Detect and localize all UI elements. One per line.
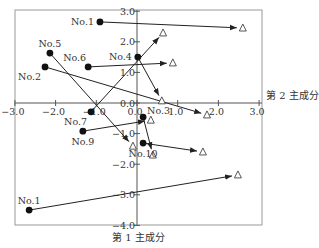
pca-arrow-chart: −3.0−2.0−1.00.01.02.03.03.02.01.00.0−1.0… [0, 0, 319, 248]
end-point-triangle [147, 116, 154, 123]
point-label: No.4 [109, 51, 132, 62]
x-tick-label: −2.0 [42, 106, 65, 117]
point-label: No.5 [38, 38, 61, 49]
start-point-dot [42, 63, 49, 70]
point-label: No.2 [18, 71, 41, 82]
x-tick-label: 2.0 [209, 106, 224, 117]
x-tick-label: 3.0 [250, 106, 265, 117]
start-point-dot [79, 128, 86, 135]
y-tick-label: −3.0 [112, 189, 135, 200]
y-tick-label: −1.0 [112, 128, 135, 139]
point-label: No.1 [71, 16, 94, 27]
start-point-dot [134, 54, 141, 61]
arrow-line [29, 176, 232, 210]
end-point-triangle [160, 29, 167, 36]
arrow-line [138, 57, 159, 95]
start-point-dot [140, 114, 147, 121]
start-point-dot [47, 50, 54, 57]
point-label: No.6 [63, 52, 86, 63]
start-point-dot [26, 207, 33, 214]
point-label: No.9 [71, 136, 94, 147]
y-tick-label: −2.0 [112, 159, 135, 170]
end-point-triangle [239, 24, 246, 31]
start-point-dot [85, 63, 92, 70]
point-label: No.3 [147, 105, 170, 116]
end-point-triangle [234, 171, 241, 178]
y-tick-label: 2.0 [120, 36, 135, 47]
x-axis-title: 第 2 主成分 [266, 89, 319, 101]
y-tick-label: −4.0 [112, 220, 135, 231]
point-label: No.7 [64, 116, 87, 127]
start-point-dot [97, 19, 104, 26]
start-point-dot [88, 108, 95, 115]
y-tick-label: 0.0 [120, 98, 135, 109]
x-tick-label: −3.0 [1, 106, 24, 117]
y-axis-title: 第 1 主成分 [112, 231, 165, 243]
end-point-triangle [169, 59, 176, 66]
point-label: No.1 [18, 195, 41, 206]
arrow-line [100, 22, 237, 28]
y-tick-label: 3.0 [120, 6, 135, 17]
start-point-dot [140, 140, 147, 147]
point-label: No.10 [129, 148, 158, 159]
end-point-triangle [199, 148, 206, 155]
